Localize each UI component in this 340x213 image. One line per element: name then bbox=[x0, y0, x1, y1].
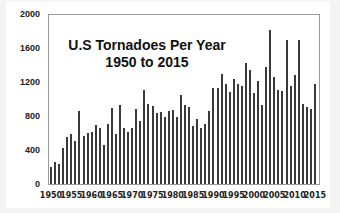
bar-1961 bbox=[95, 125, 97, 184]
bar-1993 bbox=[225, 84, 227, 184]
bar-1970 bbox=[131, 128, 133, 184]
chart-title-line2: 1950 to 2015 bbox=[62, 54, 232, 71]
bar-1972 bbox=[139, 121, 141, 184]
bar-1953 bbox=[62, 148, 64, 184]
chart-title-line1: U.S Tornadoes Per Year bbox=[62, 37, 232, 54]
x-tick-1965: 1965 bbox=[101, 191, 123, 200]
bar-2013 bbox=[306, 107, 308, 184]
bar-1998 bbox=[245, 63, 247, 184]
bar-1952 bbox=[58, 164, 60, 184]
x-tick-1975: 1975 bbox=[141, 191, 163, 200]
bar-1980 bbox=[172, 110, 174, 184]
bar-1995 bbox=[233, 79, 235, 184]
bar-1996 bbox=[237, 84, 239, 184]
x-tick-1990: 1990 bbox=[202, 191, 224, 200]
x-axis-line bbox=[48, 184, 320, 185]
bar-1990 bbox=[212, 88, 214, 184]
bar-1984 bbox=[188, 107, 190, 184]
bar-1999 bbox=[249, 70, 251, 184]
bar-1965 bbox=[111, 108, 113, 184]
x-tick-1985: 1985 bbox=[182, 191, 204, 200]
y-tick-1200: 1200 bbox=[0, 77, 40, 87]
bar-1967 bbox=[119, 105, 121, 184]
x-tick-2005: 2005 bbox=[263, 191, 285, 200]
bar-2012 bbox=[302, 104, 304, 184]
bar-1982 bbox=[180, 95, 182, 184]
bar-1974 bbox=[147, 104, 149, 184]
bar-1975 bbox=[152, 106, 154, 184]
y-tick-0: 0 bbox=[0, 179, 40, 189]
bar-1981 bbox=[176, 117, 178, 184]
chart-title: U.S Tornadoes Per Year 1950 to 2015 bbox=[62, 37, 232, 71]
bar-1951 bbox=[54, 162, 56, 184]
bar-1964 bbox=[107, 124, 109, 184]
bar-1989 bbox=[208, 111, 210, 184]
bar-1991 bbox=[217, 88, 219, 184]
bar-2011 bbox=[298, 40, 300, 184]
bar-1988 bbox=[204, 124, 206, 184]
bar-1986 bbox=[196, 119, 198, 184]
bar-1977 bbox=[160, 112, 162, 184]
x-tick-2015: 2015 bbox=[304, 191, 326, 200]
bar-1978 bbox=[164, 117, 166, 184]
bar-2007 bbox=[281, 91, 283, 184]
bar-1955 bbox=[70, 134, 72, 184]
bar-1971 bbox=[135, 109, 137, 184]
bar-1983 bbox=[184, 105, 186, 184]
bar-2000 bbox=[253, 93, 255, 184]
bar-1994 bbox=[229, 92, 231, 184]
bar-1969 bbox=[127, 132, 129, 184]
bar-1997 bbox=[241, 86, 243, 184]
bar-1987 bbox=[200, 128, 202, 184]
bar-1992 bbox=[221, 74, 223, 184]
bar-1954 bbox=[66, 137, 68, 184]
bar-2008 bbox=[286, 40, 288, 184]
bar-1976 bbox=[156, 113, 158, 184]
bar-1959 bbox=[87, 133, 89, 184]
x-tick-1950: 1950 bbox=[40, 191, 62, 200]
bar-1950 bbox=[50, 167, 52, 184]
x-tick-2000: 2000 bbox=[243, 191, 265, 200]
x-tick-1980: 1980 bbox=[162, 191, 184, 200]
bar-2001 bbox=[257, 81, 259, 184]
x-tick-1960: 1960 bbox=[80, 191, 102, 200]
bar-1960 bbox=[91, 132, 93, 184]
bar-2003 bbox=[265, 67, 267, 184]
bar-2009 bbox=[290, 86, 292, 184]
bar-2002 bbox=[261, 105, 263, 184]
bar-1957 bbox=[78, 111, 80, 184]
bar-1979 bbox=[168, 111, 170, 184]
x-tick-1970: 1970 bbox=[121, 191, 143, 200]
bar-1963 bbox=[103, 145, 105, 184]
bar-1966 bbox=[115, 134, 117, 184]
bar-2010 bbox=[294, 75, 296, 184]
y-tick-1600: 1600 bbox=[0, 43, 40, 53]
bar-1956 bbox=[74, 141, 76, 184]
bar-2014 bbox=[310, 109, 312, 184]
y-tick-2000: 2000 bbox=[0, 9, 40, 19]
bar-1985 bbox=[192, 126, 194, 184]
bar-2015 bbox=[314, 84, 316, 184]
x-tick-2010: 2010 bbox=[283, 191, 305, 200]
bar-2005 bbox=[273, 77, 275, 184]
y-tick-800: 800 bbox=[0, 111, 40, 121]
bar-1973 bbox=[143, 90, 145, 184]
bar-2006 bbox=[277, 90, 279, 184]
y-tick-400: 400 bbox=[0, 145, 40, 155]
bar-1968 bbox=[123, 128, 125, 184]
x-tick-1995: 1995 bbox=[223, 191, 245, 200]
bar-1962 bbox=[99, 128, 101, 184]
bar-2004 bbox=[269, 30, 271, 184]
bar-1958 bbox=[83, 136, 85, 184]
x-tick-1955: 1955 bbox=[60, 191, 82, 200]
